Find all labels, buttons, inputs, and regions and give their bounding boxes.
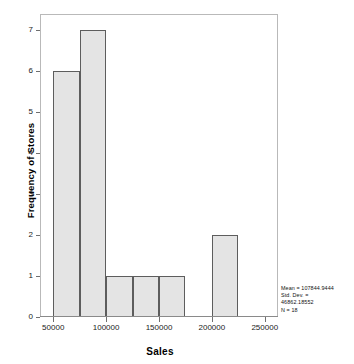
histogram-bar: [133, 276, 159, 317]
x-axis-title: Sales: [40, 346, 280, 357]
x-tick-mark: [265, 317, 266, 322]
x-tick-label: 150000: [135, 323, 183, 332]
y-tick-label: 2: [29, 229, 33, 240]
stat-n: N = 18: [281, 307, 353, 314]
x-tick-label: 100000: [82, 323, 130, 332]
x-tick-mark: [159, 317, 160, 322]
histogram-bar: [212, 235, 238, 317]
x-tick-mark: [106, 317, 107, 322]
y-tick-label: 0: [29, 311, 33, 322]
histogram-bar: [159, 276, 185, 317]
x-tick-label: 200000: [188, 323, 236, 332]
stat-stddev-value: 46862.18552: [281, 299, 353, 306]
histogram-chart: Frequency of Stores 01234567 50000100000…: [0, 0, 354, 364]
y-tick-label: 5: [29, 106, 33, 117]
stat-stddev-label: Std. Dev. =: [281, 292, 353, 299]
y-tick-label: 4: [29, 147, 33, 158]
x-tick-mark: [212, 317, 213, 322]
stat-mean: Mean = 107844.9444: [281, 285, 353, 292]
y-tick-label: 1: [29, 270, 33, 281]
histogram-bar: [106, 276, 132, 317]
y-tick-label: 7: [29, 24, 33, 35]
bars-layer: [40, 14, 278, 317]
statistics-annotation: Mean = 107844.9444 Std. Dev. = 46862.185…: [281, 285, 353, 314]
y-tick-mark: [36, 317, 40, 318]
x-tick-label: 250000: [241, 323, 289, 332]
y-tick-label: 6: [29, 65, 33, 76]
histogram-bar: [53, 71, 79, 317]
histogram-bar: [80, 30, 106, 317]
x-tick-label: 50000: [29, 323, 77, 332]
y-tick-label: 3: [29, 188, 33, 199]
x-tick-mark: [53, 317, 54, 322]
